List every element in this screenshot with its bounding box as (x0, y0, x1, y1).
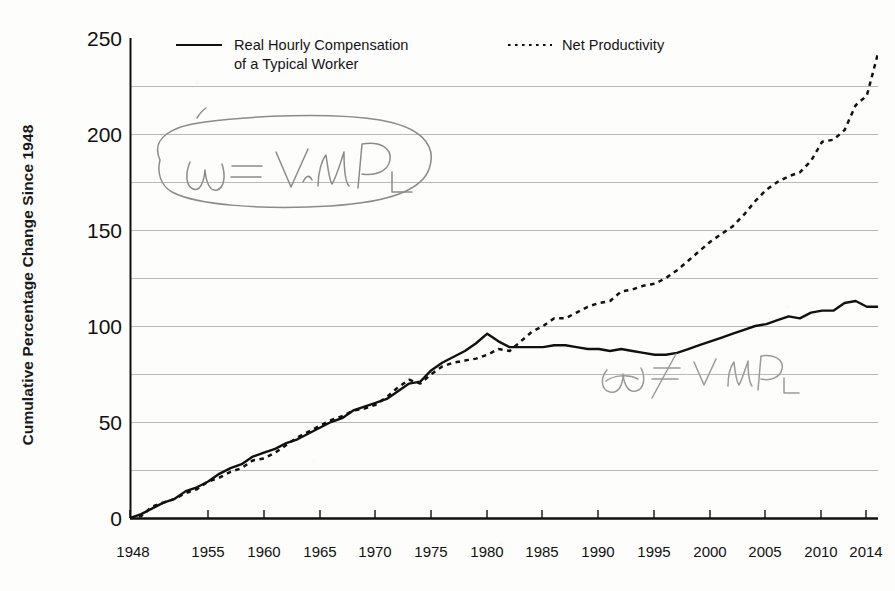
x-tick-1970: 1970 (345, 543, 405, 560)
x-tick-1975: 1975 (401, 543, 461, 560)
x-tick-1948: 1948 (103, 543, 163, 560)
x-tick-1990: 1990 (568, 543, 628, 560)
x-tick-2000: 2000 (680, 543, 740, 560)
plot-canvas (0, 0, 895, 591)
x-tick-1995: 1995 (624, 543, 684, 560)
x-tick-1960: 1960 (234, 543, 294, 560)
x-axis-ticks (130, 510, 866, 518)
x-tick-1955: 1955 (178, 543, 238, 560)
legend-label-real-hourly-compensation: Real Hourly Compensation of a Typical Wo… (234, 36, 504, 73)
series-line-net-productivity (130, 53, 878, 518)
x-tick-1980: 1980 (457, 543, 517, 560)
x-tick-2005: 2005 (735, 543, 795, 560)
legend-label-net-productivity: Net Productivity (562, 36, 762, 55)
annotation-circled-equation (158, 108, 432, 207)
chart-figure: Cumulative Percentage Change Since 1948 … (0, 0, 895, 591)
x-tick-2014: 2014 (836, 543, 895, 560)
x-tick-1965: 1965 (290, 543, 350, 560)
annotation-inequality-equation (602, 354, 799, 398)
gridlines (130, 86, 878, 470)
x-tick-1985: 1985 (512, 543, 572, 560)
series-line-real-hourly-compensation (130, 301, 878, 518)
